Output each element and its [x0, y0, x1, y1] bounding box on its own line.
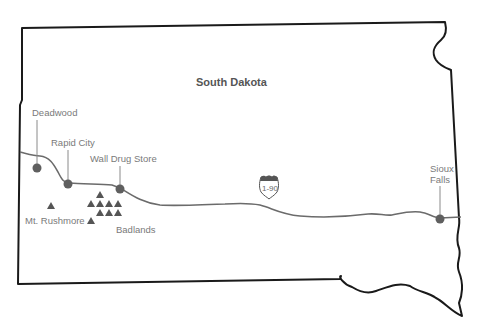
mountain-icon [105, 209, 113, 216]
city-wall-drug-store: Wall Drug Store [90, 153, 157, 194]
landmark-label: Badlands [116, 224, 156, 235]
mountain-icon [114, 200, 122, 207]
city-label: Deadwood [32, 107, 77, 118]
mountain-cluster-icon [87, 191, 122, 224]
highway-i90 [20, 152, 461, 218]
city-sioux-falls: Sioux Falls [430, 163, 456, 224]
mountain-icon [105, 200, 113, 207]
city-label-line: Falls [430, 174, 450, 185]
city-dot-icon [436, 215, 445, 224]
mountain-icon [96, 191, 104, 198]
mountain-icon [87, 200, 95, 207]
city-label: Rapid City [51, 137, 95, 148]
landmark-badlands: Badlands [87, 191, 156, 235]
shield-label: 1-90 [262, 184, 279, 193]
city-dot-icon [33, 164, 42, 173]
city-label: Wall Drug Store [90, 153, 157, 164]
landmark-label: Mt. Rushmore [25, 215, 85, 226]
shield-top [260, 176, 278, 182]
map-title: South Dakota [196, 76, 268, 88]
mountain-icon [114, 209, 122, 216]
city-rapid-city: Rapid City [51, 137, 95, 189]
interstate-shield-icon: 1-90 [260, 176, 279, 200]
city-label: Sioux Falls [430, 163, 456, 185]
mountain-icon [96, 200, 104, 207]
city-dot-icon [64, 180, 73, 189]
state-border [18, 22, 462, 316]
landmark-mt-rushmore: Mt. Rushmore [25, 202, 85, 226]
mountain-icon [47, 202, 55, 209]
city-dot-icon [116, 185, 125, 194]
city-label-line: Sioux [430, 163, 454, 174]
mountain-icon [87, 217, 95, 224]
south-dakota-map: South Dakota Deadwood Rapid City Wall Dr… [0, 0, 482, 328]
mountain-icon [96, 209, 104, 216]
